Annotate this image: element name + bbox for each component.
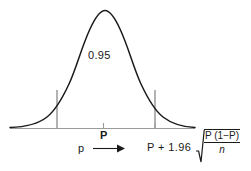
distribution-figure: 0.95 P p P + 1.96 P (1−P) n: [0, 0, 251, 171]
standard-error-denominator: n: [204, 142, 240, 155]
standard-error-numerator: P (1−P): [204, 130, 240, 142]
standard-error-fraction: P (1−P) n: [204, 129, 240, 155]
standard-error-expression: P (1−P) n: [196, 128, 240, 163]
p-to-P-arrow-head: [117, 145, 125, 153]
upper-confidence-limit-label: P + 1.96: [147, 142, 191, 153]
population-proportion-label: P: [100, 130, 107, 141]
normal-curve: [10, 11, 195, 128]
area-probability-label: 0.95: [88, 50, 111, 61]
sample-proportion-label: p: [78, 143, 84, 154]
